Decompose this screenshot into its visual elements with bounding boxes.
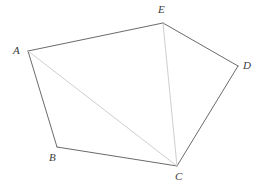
vertex-label-A: A xyxy=(13,45,20,56)
pentagon-diagram-canvas xyxy=(0,0,264,192)
edge-D-C xyxy=(177,66,238,166)
vertex-label-B: B xyxy=(49,152,56,163)
edge-B-A xyxy=(28,51,57,147)
edge-E-D xyxy=(163,23,238,66)
geometry-figure: A B C D E xyxy=(0,0,264,192)
vertex-label-D: D xyxy=(243,60,251,71)
vertex-label-C: C xyxy=(175,171,182,182)
diagonal-E-C xyxy=(163,23,177,166)
edge-C-B xyxy=(57,147,177,166)
edge-A-E xyxy=(28,23,163,51)
diagonal-A-C xyxy=(28,51,177,166)
vertex-label-E: E xyxy=(158,4,165,15)
